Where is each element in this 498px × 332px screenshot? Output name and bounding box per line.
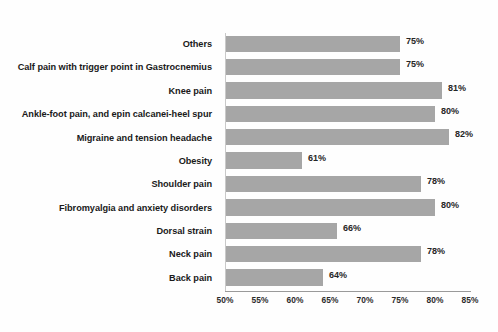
bar	[225, 269, 323, 285]
bar-row: 80%	[225, 103, 470, 126]
bar-row: 66%	[225, 220, 470, 243]
bar-value-label: 64%	[329, 271, 347, 280]
bar	[225, 59, 400, 75]
category-label: Shoulder pain	[151, 180, 212, 189]
bar	[225, 223, 337, 239]
bar-row: 64%	[225, 267, 470, 290]
category-label-row: Dorsal strain	[0, 220, 219, 243]
bar-chart: OthersCalf pain with trigger point in Ga…	[0, 0, 498, 332]
bar-row: 75%	[225, 56, 470, 79]
category-label-row: Shoulder pain	[0, 173, 219, 196]
category-label: Ankle-foot pain, and epin calcanei-heel …	[22, 110, 212, 119]
bar	[225, 176, 421, 192]
bar	[225, 129, 449, 145]
bar-value-label: 75%	[406, 60, 424, 69]
bar-value-label: 66%	[343, 224, 361, 233]
bar-value-label: 61%	[308, 154, 326, 163]
category-label: Neck pain	[169, 250, 212, 259]
bar-value-label: 80%	[441, 201, 459, 210]
category-label: Calf pain with trigger point in Gastrocn…	[18, 63, 212, 72]
bar-row: 80%	[225, 197, 470, 220]
bar-row: 78%	[225, 243, 470, 266]
category-label-row: Knee pain	[0, 80, 219, 103]
bar-value-label: 78%	[427, 177, 445, 186]
category-label-row: Calf pain with trigger point in Gastrocn…	[0, 56, 219, 79]
category-label-row: Obesity	[0, 150, 219, 173]
x-axis-line	[225, 291, 471, 292]
category-label-row: Fibromyalgia and anxiety disorders	[0, 197, 219, 220]
x-tick-label: 55%	[252, 296, 269, 304]
x-tick-label: 65%	[322, 296, 339, 304]
bar-value-label: 81%	[448, 84, 466, 93]
x-tick-label: 75%	[392, 296, 409, 304]
x-tick-label: 80%	[427, 296, 444, 304]
bar-row: 78%	[225, 173, 470, 196]
category-label-row: Migraine and tension headache	[0, 126, 219, 149]
category-label: Migraine and tension headache	[77, 134, 212, 143]
bar-value-label: 78%	[427, 247, 445, 256]
bar	[225, 106, 435, 122]
category-label: Fibromyalgia and anxiety disorders	[59, 204, 212, 213]
bar-value-label: 80%	[441, 107, 459, 116]
x-tick-label: 50%	[217, 296, 234, 304]
bar-row: 61%	[225, 150, 470, 173]
bar	[225, 152, 302, 168]
category-label: Knee pain	[169, 87, 212, 96]
bar-row: 82%	[225, 126, 470, 149]
bar-value-label: 82%	[455, 130, 473, 139]
category-label-row: Back pain	[0, 267, 219, 290]
bar-row: 75%	[225, 33, 470, 56]
bar-row: 81%	[225, 80, 470, 103]
x-tick-label: 85%	[462, 296, 479, 304]
x-axis-ticks: 50%55%60%65%70%75%80%85%	[225, 296, 471, 312]
bar	[225, 246, 421, 262]
category-label-row: Ankle-foot pain, and epin calcanei-heel …	[0, 103, 219, 126]
y-axis-spine	[225, 33, 226, 291]
bar	[225, 82, 442, 98]
bar	[225, 36, 400, 52]
bar	[225, 199, 435, 215]
category-label-row: Neck pain	[0, 243, 219, 266]
category-label: Obesity	[179, 157, 212, 166]
bar-value-label: 75%	[406, 37, 424, 46]
category-label: Back pain	[169, 274, 212, 283]
category-label: Dorsal strain	[156, 227, 212, 236]
category-axis: OthersCalf pain with trigger point in Ga…	[0, 33, 219, 290]
x-tick-label: 60%	[287, 296, 304, 304]
category-label-row: Others	[0, 33, 219, 56]
category-label: Others	[183, 40, 212, 49]
x-tick-label: 70%	[357, 296, 374, 304]
plot-area: 75%75%81%80%82%61%78%80%66%78%64%	[225, 33, 470, 290]
